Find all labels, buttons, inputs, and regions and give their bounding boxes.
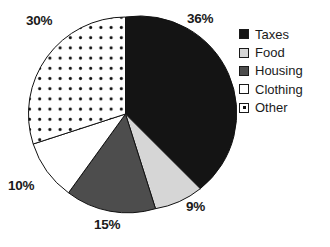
legend-swatch-food-icon xyxy=(239,48,249,58)
legend-item-other[interactable]: Other xyxy=(239,99,330,117)
slice-value-label-other: 30% xyxy=(26,13,52,28)
slice-value-label-clothing: 10% xyxy=(8,178,34,193)
pie-plot-area: 36% 9% 15% 10% 30% xyxy=(0,0,240,247)
legend-label-other: Other xyxy=(255,101,288,114)
legend-label-taxes: Taxes xyxy=(255,28,289,41)
slice-value-label-taxes: 36% xyxy=(187,11,213,26)
legend-label-clothing: Clothing xyxy=(255,83,303,96)
legend-item-housing[interactable]: Housing xyxy=(239,62,330,80)
slice-value-label-food: 9% xyxy=(186,199,205,214)
legend-swatch-clothing-icon xyxy=(239,84,249,94)
legend-swatch-other-icon xyxy=(239,103,249,113)
legend-swatch-taxes-icon xyxy=(239,29,249,39)
slice-value-label-housing: 15% xyxy=(94,217,120,232)
legend-label-housing: Housing xyxy=(255,64,303,77)
legend-swatch-housing-icon xyxy=(239,66,249,76)
chart-legend: Taxes Food Housing Clothing Other xyxy=(239,25,330,117)
legend-item-taxes[interactable]: Taxes xyxy=(239,25,330,43)
legend-label-food: Food xyxy=(255,46,285,59)
legend-item-food[interactable]: Food xyxy=(239,43,330,61)
legend-item-clothing[interactable]: Clothing xyxy=(239,80,330,98)
pie-chart-figure: 36% 9% 15% 10% 30% Taxes Food Housing Cl… xyxy=(0,0,330,247)
